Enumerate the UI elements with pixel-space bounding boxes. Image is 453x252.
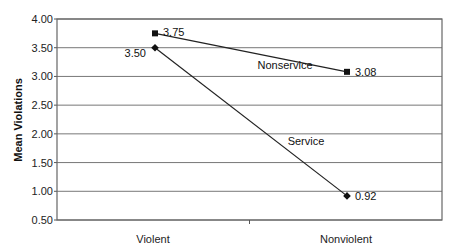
series-line-service (155, 48, 347, 196)
y-axis-ticks: 4.003.503.002.502.001.501.000.50 (32, 13, 57, 226)
series-name-label-nonservice: Nonservice (257, 59, 312, 71)
plot-frame (57, 19, 442, 220)
y-tick-label: 4.00 (32, 13, 53, 25)
data-label: 3.08 (355, 66, 376, 78)
square-marker-icon (344, 69, 350, 75)
y-tick-label: 2.50 (32, 99, 53, 111)
data-label: 0.92 (355, 190, 376, 202)
series-line-nonservice (155, 33, 347, 71)
y-tick-label: 3.50 (32, 42, 53, 54)
x-category-label-nonviolent: Nonviolent (320, 233, 372, 245)
line-chart: 4.003.503.002.502.001.501.000.50 Mean Vi… (0, 0, 453, 252)
y-axis-title: Mean Violations (12, 78, 24, 162)
data-label: 3.50 (125, 47, 146, 59)
series-name-label-service: Service (288, 135, 325, 147)
y-tick-label: 2.00 (32, 128, 53, 140)
square-marker-icon (152, 30, 158, 36)
y-tick-label: 1.00 (32, 185, 53, 197)
y-tick-label: 1.50 (32, 157, 53, 169)
y-tick-label: 0.50 (32, 214, 53, 226)
gridlines (57, 19, 442, 220)
x-category-label-violent: Violent (136, 233, 169, 245)
data-label: 3.75 (163, 26, 184, 38)
series-group: 3.753.08Nonservice3.500.92Service (125, 26, 377, 202)
y-tick-label: 3.00 (32, 70, 53, 82)
